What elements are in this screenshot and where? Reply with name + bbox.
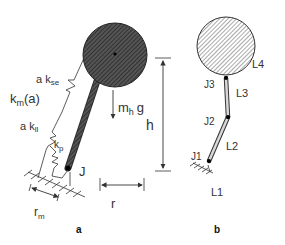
inverted-pendulum-figure: a kse km(a) a kll kp mhg h J rm r a (0, 0, 285, 245)
label-j2: J2 (204, 116, 215, 127)
caption-b: b (214, 224, 220, 235)
joint-j3 (224, 76, 228, 80)
label-l1: L1 (211, 186, 223, 198)
height-dimension (155, 58, 171, 171)
label-rm: rm (34, 205, 45, 221)
label-l2: L2 (226, 140, 238, 152)
label-a-kse: a kse (36, 73, 60, 87)
caption-a: a (76, 224, 82, 235)
body-l4 (197, 17, 255, 75)
label-j3: J3 (204, 79, 215, 90)
label-km-a: km(a) (10, 91, 40, 108)
label-kp: kp (54, 139, 64, 153)
label-l4: L4 (252, 58, 264, 70)
label-h: h (146, 117, 154, 133)
label-joint-j: J (79, 164, 86, 179)
center-of-mass-dot (113, 52, 116, 55)
r-dimension (100, 178, 144, 191)
joint-j2 (226, 115, 230, 119)
panel-b: L4 J3 L3 J2 L2 J1 L1 b (190, 17, 264, 235)
spring-a-kse (62, 58, 84, 112)
label-j1: J1 (191, 151, 202, 162)
label-mh-g: mhg (118, 100, 144, 117)
ground-hatch-b (190, 162, 213, 174)
label-r: r (111, 196, 116, 211)
joint-j1 (207, 159, 211, 163)
joint-j (66, 166, 71, 171)
ground-hatch-a (24, 170, 85, 197)
label-a-kll: a kll (20, 120, 38, 134)
label-l3: L3 (236, 87, 248, 99)
panel-a: a kse km(a) a kll kp mhg h J rm r a (10, 23, 171, 235)
